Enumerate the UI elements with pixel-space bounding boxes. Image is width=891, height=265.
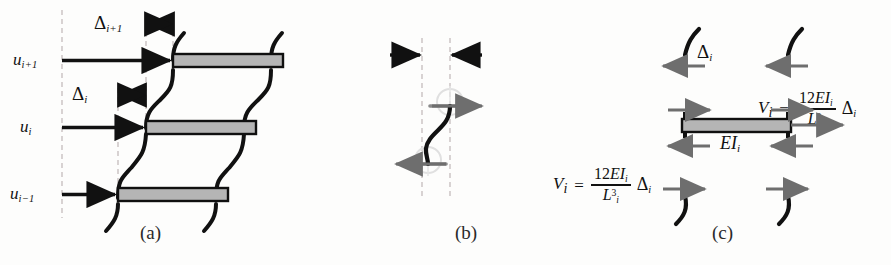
column-right-segment-upper: [244, 70, 271, 128]
column-left-segment-base: [106, 204, 118, 231]
column-left-segment-upper: [146, 70, 173, 128]
caption-panel-a: (a): [140, 222, 161, 244]
floor-slab-i-minus-1: [118, 188, 228, 201]
label-delta-i: Δi: [72, 84, 87, 105]
label-u-i-minus-1: ui−1: [10, 185, 34, 204]
floor-slab-i-plus-1: [173, 54, 283, 67]
column-stub-upper-right: [788, 29, 802, 55]
label-u-i: ui: [20, 118, 32, 137]
column-stub-lower-right: [779, 196, 789, 224]
panel-c: Vi+1 Vi+1 Vi Vi mi fi: [600, 0, 891, 265]
column-right-segment-base: [204, 204, 216, 231]
panel-b-graphic: [270, 0, 610, 265]
floor-slab-i: [146, 121, 256, 134]
caption-panel-b: (b): [455, 222, 477, 244]
column-stub-upper-left: [685, 29, 699, 55]
caption-panel-c: (c): [712, 222, 733, 244]
label-delta-i-plus-1: Δi+1: [94, 13, 122, 34]
panel-b: Δi EIi Vi = 12EIi L3i Δi Vi = 12EIi L3i …: [270, 0, 610, 265]
panel-c-graphic: [600, 0, 891, 265]
mass-block: [682, 119, 791, 132]
column-stub-lower-left: [676, 196, 686, 224]
figure-root: ui+1 ui ui−1 Δi+1 Δi: [0, 0, 891, 265]
label-u-i-plus-1: ui+1: [13, 51, 37, 70]
